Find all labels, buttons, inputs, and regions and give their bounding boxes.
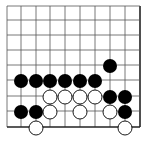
black-stone[interactable] <box>88 74 102 88</box>
white-stone[interactable] <box>58 90 72 104</box>
black-stone[interactable] <box>103 90 117 104</box>
black-stone[interactable] <box>118 105 132 119</box>
black-stone[interactable] <box>58 74 72 88</box>
go-board <box>0 0 148 149</box>
white-stone[interactable] <box>43 105 57 119</box>
white-stone[interactable] <box>73 105 87 119</box>
black-stone[interactable] <box>118 90 132 104</box>
white-stone[interactable] <box>118 121 132 135</box>
black-stone[interactable] <box>14 105 28 119</box>
black-stone[interactable] <box>14 74 28 88</box>
black-stone[interactable] <box>43 74 57 88</box>
black-stone[interactable] <box>29 105 43 119</box>
white-stone[interactable] <box>88 90 102 104</box>
black-stone[interactable] <box>29 74 43 88</box>
black-stone[interactable] <box>103 59 117 73</box>
white-stone[interactable] <box>73 90 87 104</box>
white-stone[interactable] <box>29 121 43 135</box>
black-stone[interactable] <box>73 74 87 88</box>
white-stone[interactable] <box>43 90 57 104</box>
white-stone[interactable] <box>103 105 117 119</box>
